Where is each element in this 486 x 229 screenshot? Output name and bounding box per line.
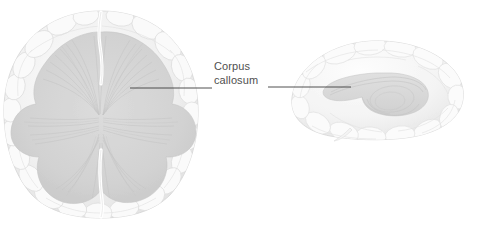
brain-figure: Corpus callosum	[0, 0, 486, 229]
corpus-callosum-label: Corpus callosum	[214, 60, 284, 87]
corpus-callosum-label-line2: callosum	[214, 74, 284, 88]
sagittal-brain-view	[288, 35, 471, 146]
brain-illustration	[0, 0, 486, 229]
corpus-callosum-label-line1: Corpus	[214, 60, 284, 74]
axial-brain-view	[0, 4, 202, 223]
